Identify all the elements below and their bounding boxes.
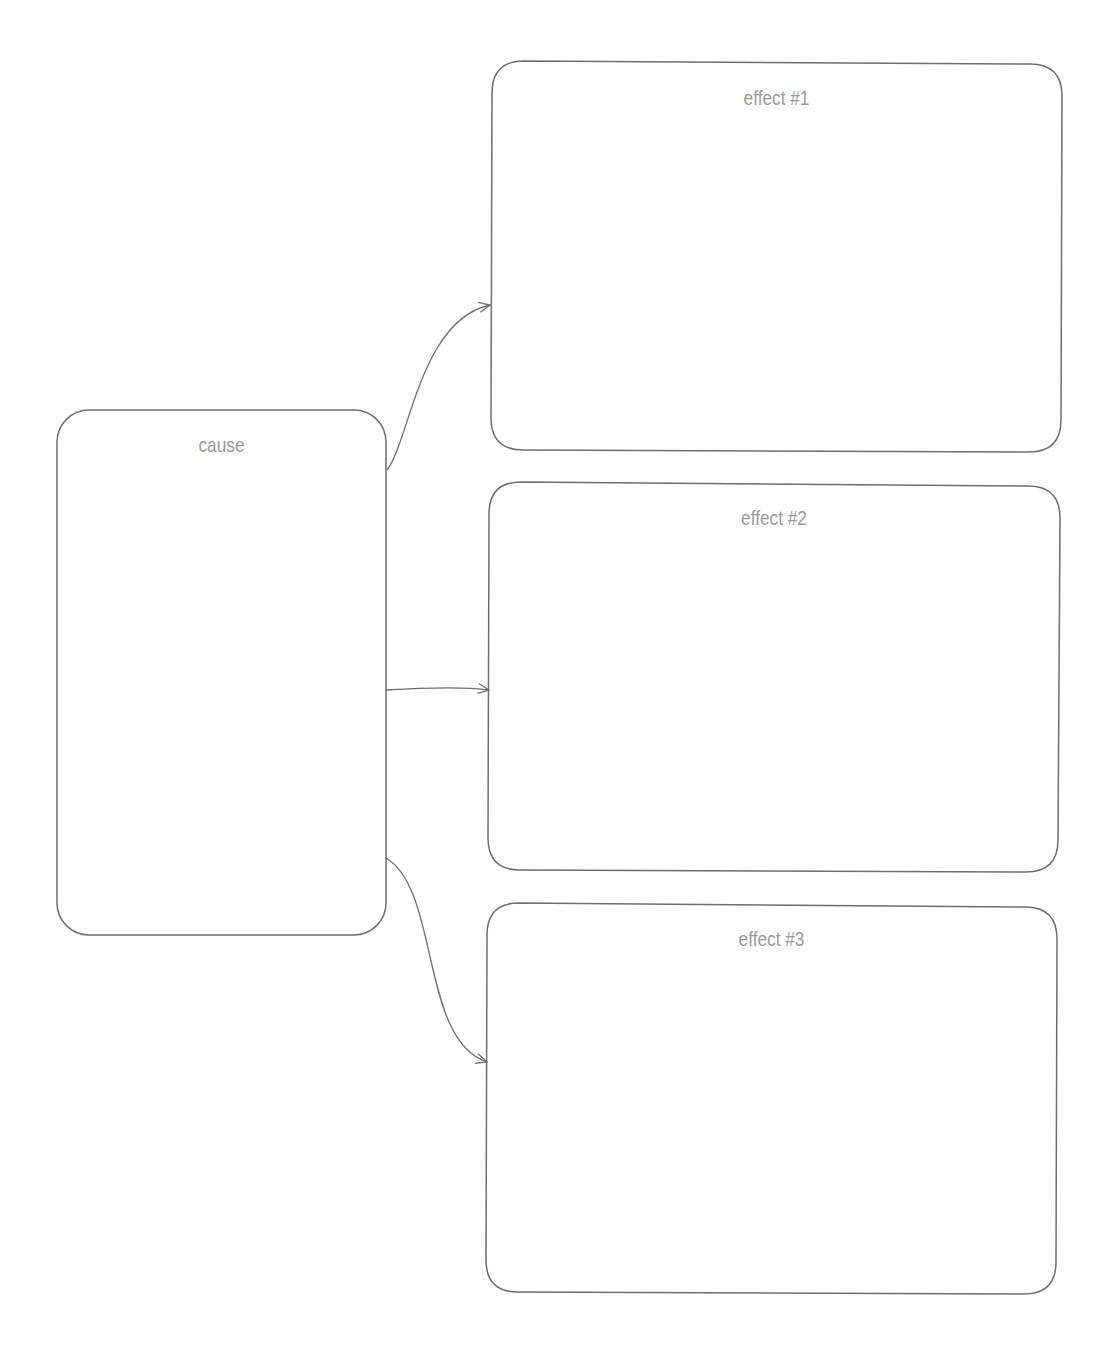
cause-label: cause <box>87 433 357 457</box>
effect-1-box[interactable] <box>491 61 1062 451</box>
effect-3-box[interactable] <box>486 903 1057 1293</box>
connector-arrow-effect-3 <box>386 858 487 1062</box>
effect-1-label: effect #1 <box>542 86 1010 110</box>
connector-arrow-effect-1 <box>387 305 490 470</box>
effect-2-box[interactable] <box>488 482 1060 872</box>
cause-box[interactable] <box>57 410 386 935</box>
connector-arrow-effect-2 <box>386 688 489 690</box>
effect-2-label: effect #2 <box>539 506 1008 530</box>
effect-3-label: effect #3 <box>537 927 1005 951</box>
